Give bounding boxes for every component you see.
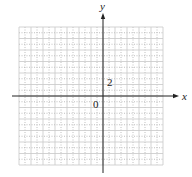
coordinate-grid: x y 2 0: [0, 0, 192, 177]
origin-label: 0: [93, 98, 99, 110]
x-axis-label: x: [181, 90, 187, 102]
y-axis-arrow-icon: [101, 13, 105, 19]
y-tick-label-2: 2: [107, 76, 113, 88]
y-axis-label: y: [99, 0, 105, 12]
x-axis-arrow-icon: [173, 94, 179, 98]
